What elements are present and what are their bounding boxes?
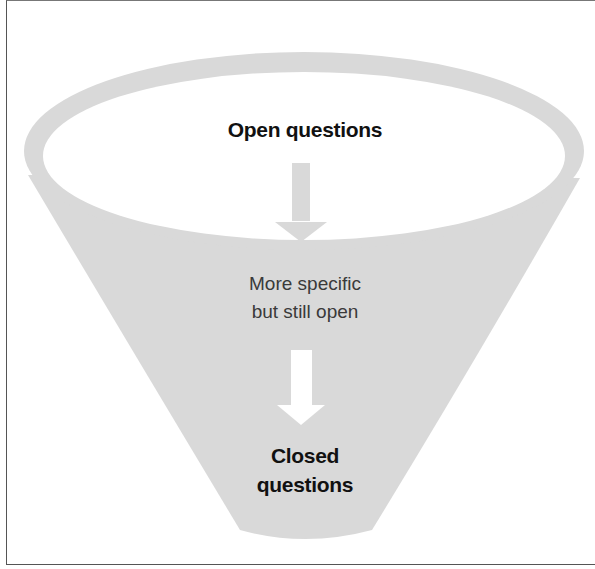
stage-closed-questions: Closed questions bbox=[205, 441, 405, 499]
stage-more-specific-line2: but still open bbox=[205, 298, 405, 326]
stage-more-specific: More specific but still open bbox=[205, 270, 405, 326]
stage-closed-line1: Closed bbox=[205, 441, 405, 470]
stage-closed-line2: questions bbox=[205, 470, 405, 499]
stage-open-questions: Open questions bbox=[205, 118, 405, 142]
stage-more-specific-line1: More specific bbox=[205, 270, 405, 298]
